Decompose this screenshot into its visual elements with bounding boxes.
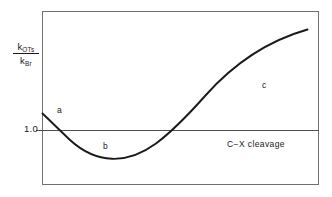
curve-label-a: a xyxy=(57,105,62,115)
fraction-bar xyxy=(13,53,39,54)
curve-label-c: c xyxy=(262,80,266,90)
reference-line-label: C−X cleavage xyxy=(227,139,285,149)
y-axis-denominator-subscript: Br xyxy=(25,60,32,67)
y-axis-numerator-subscript: OTs xyxy=(22,46,34,53)
y-axis-denominator: kBr xyxy=(9,56,43,66)
plot-canvas xyxy=(0,0,332,197)
plot-frame xyxy=(43,12,319,185)
y-axis-label: kOTs kBr xyxy=(9,42,43,66)
curve-label-b: b xyxy=(103,141,108,151)
y-tick-label-1-0: 1.0 xyxy=(16,123,38,134)
figure-container: kOTs kBr 1.0 a b c C−X cleavage xyxy=(0,0,332,197)
y-axis-numerator: kOTs xyxy=(9,42,43,52)
